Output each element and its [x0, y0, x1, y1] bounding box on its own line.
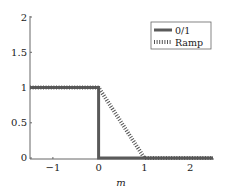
x-axis-label: m [116, 177, 125, 188]
x-tick-label: −1 [46, 162, 61, 173]
legend-label-ramp: Ramp [175, 37, 203, 48]
y-tick-label: 0.5 [11, 117, 27, 128]
series-ramp [30, 88, 213, 159]
x-tick-labels: −1 0 1 2 [46, 162, 194, 173]
y-tick-label: 0 [21, 152, 27, 163]
x-tick-label: 2 [187, 162, 193, 173]
y-tick-label: 2 [21, 12, 27, 23]
chart: 2 1.5 1 0.5 0 −1 0 1 2 m 0/1 Ramp [0, 0, 226, 195]
x-tick-label: 1 [141, 162, 147, 173]
series-0-1 [30, 88, 213, 159]
y-tick-label: 1 [21, 82, 27, 93]
y-tick-label: 1.5 [11, 47, 27, 58]
legend: 0/1 Ramp [151, 22, 211, 49]
x-tick-label: 0 [95, 162, 101, 173]
legend-label-0-1: 0/1 [175, 25, 190, 36]
y-tick-labels: 2 1.5 1 0.5 0 [11, 12, 27, 163]
